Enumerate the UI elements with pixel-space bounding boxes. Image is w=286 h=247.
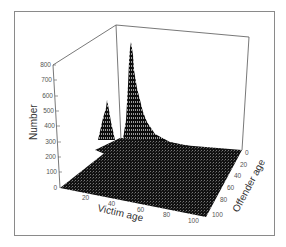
svg-text:100: 100 [46,168,57,175]
svg-text:300: 300 [45,138,56,145]
svg-text:80: 80 [220,196,228,203]
svg-text:200: 200 [45,153,56,160]
svg-text:0: 0 [245,149,249,156]
surface-peak-small [98,100,115,140]
svg-text:80: 80 [163,211,171,218]
surface-plot: 800 700 600 500 400 300 200 100 0 Number… [0,0,286,247]
svg-text:400: 400 [44,122,55,129]
z-axis-label: Number [28,104,39,140]
svg-text:20: 20 [82,194,90,201]
y-axis-label: Offender age [230,157,267,214]
svg-text:20: 20 [240,161,248,168]
surface-peak-tall [122,42,185,148]
svg-text:40: 40 [234,172,242,179]
svg-text:100: 100 [212,211,223,218]
svg-text:500: 500 [43,107,54,114]
svg-text:800: 800 [40,61,51,68]
svg-text:100: 100 [188,217,199,224]
svg-text:0: 0 [53,184,57,191]
svg-text:600: 600 [42,92,53,99]
svg-text:700: 700 [41,76,52,83]
svg-text:60: 60 [227,184,235,191]
